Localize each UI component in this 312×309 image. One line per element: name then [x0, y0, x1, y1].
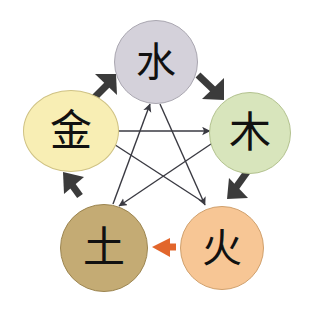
arrow-water-to-wood: [198, 75, 224, 100]
element-node-metal[interactable]: 金: [23, 90, 119, 172]
element-label-fire: 火: [202, 228, 242, 268]
wuxing-diagram: 水 金 木 土 火: [0, 0, 312, 309]
arrow-earth-to-water: [113, 104, 150, 204]
arrow-fire-to-earth: [152, 238, 176, 257]
element-label-metal: 金: [50, 110, 92, 152]
arrow-water-to-fire: [160, 104, 205, 205]
element-label-earth: 土: [83, 227, 125, 269]
element-label-water: 水: [136, 42, 176, 82]
arrow-fire-to-metal: [106, 139, 200, 200]
arrow-wood-to-earth: [119, 142, 214, 206]
element-node-wood[interactable]: 木: [209, 92, 291, 174]
element-node-water[interactable]: 水: [114, 20, 198, 104]
element-node-earth[interactable]: 土: [60, 204, 148, 292]
arrow-earth-to-metal: [63, 172, 84, 196]
arrow-wood-to-fire: [227, 172, 248, 199]
element-node-fire[interactable]: 火: [180, 206, 264, 290]
element-label-wood: 木: [229, 112, 271, 154]
